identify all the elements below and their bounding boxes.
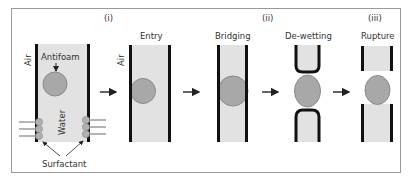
film-wall-left-bottom (361, 104, 364, 142)
film-top (296, 45, 319, 72)
air-label: Air (116, 54, 126, 66)
dewetting-title: De-wetting (285, 31, 332, 41)
air-label: Air (23, 54, 33, 66)
stage-label-ii: (ii) (262, 13, 273, 23)
water-film-top (363, 46, 392, 71)
film-wall-right-bottom (390, 104, 393, 142)
antifoam-droplet (295, 75, 321, 107)
antifoam-droplet (43, 72, 67, 96)
panel-bridging: Bridging (215, 31, 251, 142)
film-wall-left (129, 45, 132, 142)
entry-title: Entry (140, 31, 163, 41)
antifoam-droplet (365, 76, 390, 105)
antifoam-mechanism-diagram: (i) (ii) (iii) Air Antifoam Water (0, 0, 410, 187)
film-wall-left-top (361, 46, 364, 71)
film-wall-right (245, 45, 248, 142)
antifoam-label: Antifoam (41, 52, 80, 62)
film-wall-right (168, 45, 171, 142)
antifoam-droplet (131, 79, 156, 104)
film-wall-right-top (390, 46, 393, 71)
antifoam-droplet (218, 76, 248, 106)
film-wall-left (217, 45, 220, 142)
stage-label-i: (i) (104, 13, 113, 23)
water-film-bottom (363, 104, 392, 142)
panel-rupture: Rupture (361, 31, 395, 142)
bridging-title: Bridging (215, 31, 251, 41)
water-label: Water (57, 109, 67, 135)
film-bottom (296, 110, 319, 142)
surfactant-label: Surfactant (42, 159, 87, 169)
rupture-title: Rupture (361, 31, 395, 41)
stage-label-iii: (iii) (368, 13, 382, 23)
